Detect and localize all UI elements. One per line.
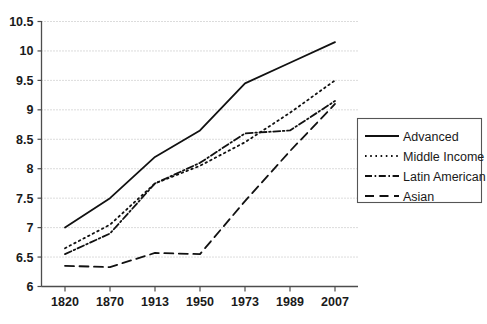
x-tick-label: 2007 xyxy=(321,295,349,309)
series-group xyxy=(65,42,335,267)
y-tick-label: 9 xyxy=(27,103,34,117)
series-line-asian xyxy=(65,104,335,267)
y-tick-label: 8.5 xyxy=(16,133,33,147)
chart-legend: AdvancedMiddle IncomeLatin AmericanAsian xyxy=(358,119,486,204)
legend-label-latin-american: Latin American xyxy=(403,170,486,184)
x-tick-label: 1973 xyxy=(231,295,259,309)
y-tick-label: 10 xyxy=(20,44,34,58)
x-tick-labels-group: 1820187019131950197319892007 xyxy=(51,295,349,309)
y-tick-label: 7.5 xyxy=(16,192,33,206)
series-line-latin-american xyxy=(65,101,335,254)
series-line-middle-income xyxy=(65,80,335,248)
y-tick-label: 8 xyxy=(27,162,34,176)
line-chart: 66.577.588.599.51010.5 18201870191319501… xyxy=(0,0,487,324)
y-tick-label: 6.5 xyxy=(16,251,33,265)
series-line-advanced xyxy=(65,42,335,228)
y-tick-label: 7 xyxy=(27,221,34,235)
axis-lines-group xyxy=(42,21,359,287)
y-tick-label: 9.5 xyxy=(16,74,33,88)
chart-canvas: 66.577.588.599.51010.5 18201870191319501… xyxy=(0,0,487,324)
legend-label-asian: Asian xyxy=(403,190,434,204)
y-tick-label: 10.5 xyxy=(9,15,33,29)
x-tick-group xyxy=(65,287,335,292)
gridlines-group xyxy=(42,22,359,287)
x-tick-label: 1870 xyxy=(96,295,124,309)
x-tick-label: 1950 xyxy=(186,295,214,309)
x-tick-label: 1989 xyxy=(276,295,304,309)
y-tick-label: 6 xyxy=(27,280,34,294)
legend-label-middle-income: Middle Income xyxy=(403,150,484,164)
y-tick-labels-group: 66.577.588.599.51010.5 xyxy=(9,15,33,294)
x-tick-label: 1820 xyxy=(51,295,79,309)
legend-label-advanced: Advanced xyxy=(403,130,459,144)
x-tick-label: 1913 xyxy=(141,295,169,309)
